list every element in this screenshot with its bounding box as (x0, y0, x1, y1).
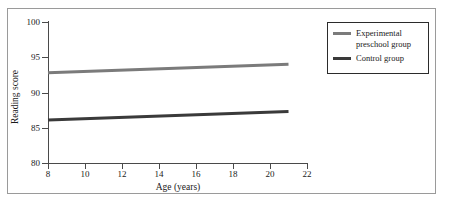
x-tick-label-10: 10 (75, 169, 95, 179)
figure-container: 80859095100 810121416182022 Age (years) … (0, 0, 449, 213)
x-tick-label-20: 20 (260, 169, 280, 179)
y-axis-title: Reading score (10, 47, 20, 147)
legend-swatch-experimental-icon (333, 32, 351, 35)
x-tick-label-8: 8 (38, 169, 58, 179)
legend-label-experimental: Experimental preschool group (356, 28, 411, 49)
legend-entry-experimental: Experimental preschool group (333, 28, 411, 49)
x-tick-label-22: 22 (297, 169, 317, 179)
x-tick-label-18: 18 (223, 169, 243, 179)
x-tick-label-12: 12 (112, 169, 132, 179)
x-axis-line (48, 163, 308, 164)
x-tick-label-16: 16 (186, 169, 206, 179)
y-tick-label-80: 80 (14, 158, 40, 168)
x-tick-label-14: 14 (149, 169, 169, 179)
legend-entry-control: Control group (333, 53, 404, 64)
y-tick-100 (42, 22, 48, 23)
legend: Experimental preschool group Control gro… (327, 22, 429, 74)
y-tick-90 (42, 93, 48, 94)
legend-label-control: Control group (356, 53, 404, 64)
y-tick-label-100: 100 (14, 17, 40, 27)
x-axis-title: Age (years) (48, 182, 308, 192)
y-tick-95 (42, 57, 48, 58)
y-axis-line (48, 21, 49, 164)
legend-swatch-control-icon (333, 57, 351, 60)
y-tick-85 (42, 128, 48, 129)
